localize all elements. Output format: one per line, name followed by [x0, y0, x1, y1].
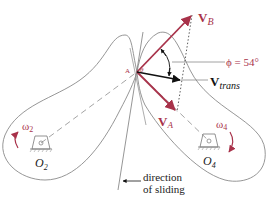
follower-body-right — [137, 32, 265, 181]
vb-label-sub: B — [207, 16, 213, 27]
cam-follower-velocity-diagram: A θ VB VA Vtrans ϕ = 54° ω2 ω4 O2 O4 dir… — [0, 0, 275, 203]
pivot-o2-label: O2 — [35, 156, 48, 172]
pivot-o2-label-main: O — [35, 156, 44, 170]
sliding-label-line2: of sliding — [143, 183, 185, 195]
cam-body-left — [3, 35, 137, 180]
normal-line — [130, 48, 146, 125]
link-line-o2-a — [41, 72, 137, 143]
phi-arc-arrowhead-bottom — [169, 68, 170, 76]
omega4-rotation-arrow-icon — [229, 132, 233, 152]
omega4-label: ω4 — [216, 118, 227, 132]
va-label-sub: A — [166, 120, 173, 130]
pivot-o2-label-sub: 2 — [44, 163, 48, 172]
diagram-canvas: A θ VB VA Vtrans ϕ = 54° ω2 ω4 O2 O4 dir… — [0, 0, 275, 203]
va-label: VA — [158, 114, 173, 130]
pivot-o4-label: O4 — [203, 154, 216, 170]
omega2-label: ω2 — [22, 120, 33, 134]
omega2-label-sub: 2 — [29, 125, 33, 134]
velocity-difference-dotted-line — [177, 15, 192, 112]
phi-arc-arrowhead-top — [161, 49, 166, 56]
phi-angle-label: ϕ = 54° — [226, 56, 259, 68]
common-tangent-line — [118, 32, 143, 190]
contact-point-label: A — [125, 67, 130, 75]
pivot-o2-icon — [30, 136, 52, 152]
omega4-label-main: ω — [216, 118, 223, 130]
vtrans-label-sub: trans — [219, 80, 240, 91]
phi-angle-arc — [163, 51, 170, 73]
vector-vb-arrow — [137, 16, 191, 72]
vb-label: VB — [198, 10, 214, 27]
theta-angle-label: θ — [140, 66, 144, 74]
sliding-label-line1: direction — [143, 171, 183, 183]
pivot-o4-label-main: O — [203, 154, 212, 168]
omega4-label-sub: 4 — [223, 123, 227, 132]
pivot-o4-icon — [198, 134, 220, 150]
vtrans-label: Vtrans — [210, 74, 240, 91]
omega2-rotation-arrow-icon — [15, 132, 18, 148]
omega2-label-main: ω — [22, 120, 29, 132]
pivot-o4-label-sub: 4 — [212, 161, 216, 170]
